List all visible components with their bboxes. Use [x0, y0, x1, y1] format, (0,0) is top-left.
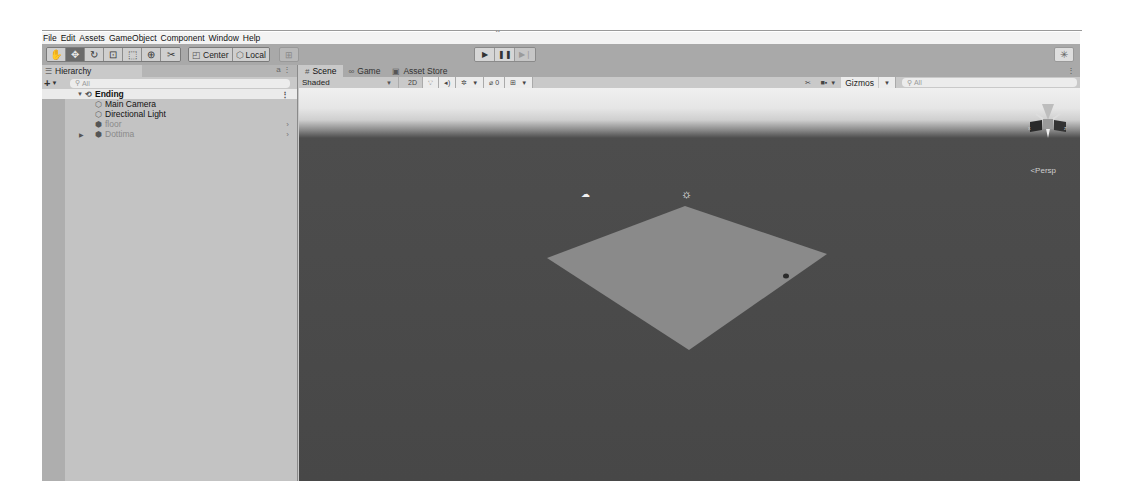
hidden-objects-toggle[interactable]: ⌀0 [484, 77, 505, 88]
menu-bar: File Edit Assets GameObject Component Wi… [42, 32, 1080, 44]
list-item-main-camera[interactable]: ⬡ Main Camera [42, 99, 297, 109]
scale-tool-button[interactable]: ⊡ [104, 48, 123, 61]
grid-hash-icon: # [305, 67, 309, 76]
gizmo-center-cube[interactable] [1043, 119, 1053, 129]
menu-gameobject[interactable]: GameObject [109, 33, 157, 43]
scene-search-input[interactable]: ⚲ All [902, 78, 1077, 87]
scene-kebab-icon[interactable]: ⋮ [1067, 66, 1075, 75]
tab-asset-store[interactable]: ▣ Asset Store [386, 65, 453, 77]
move-tool-button[interactable]: ✥ [66, 48, 85, 61]
pivot-rotation-button[interactable]: ⬡Local [233, 48, 269, 61]
search-icon: ⚲ [907, 79, 914, 87]
eye-slash-icon: ⌀ [489, 79, 493, 87]
list-item-directional-light[interactable]: ⬡ Directional Light [42, 109, 297, 119]
object-marker [783, 274, 789, 279]
hand-icon: ✋ [50, 49, 62, 60]
chevron-right-icon[interactable]: › [286, 130, 289, 139]
tab-label: Game [357, 66, 380, 76]
shading-mode-dropdown[interactable]: Shaded ▼ [299, 77, 399, 88]
hierarchy-search-input[interactable]: ⚲ All [70, 79, 290, 88]
transform-tool-button[interactable]: ⊕ [142, 48, 161, 61]
tab-scene[interactable]: # Scene [299, 65, 343, 77]
dropdown-caret-icon: ▼ [884, 80, 890, 86]
grid-snap-button[interactable]: ⊞ [279, 47, 299, 62]
local-cube-icon: ⬡ [236, 50, 244, 60]
step-icon: ▶❘ [519, 50, 532, 59]
chevron-right-icon[interactable]: › [286, 120, 289, 129]
expand-arrow-icon[interactable]: ▼ [77, 91, 85, 97]
pivot-mode-label: Center [203, 50, 229, 60]
scene-viewport[interactable]: ☁ ☼ x z <Persp [299, 88, 1080, 481]
menu-edit[interactable]: Edit [61, 33, 76, 43]
collab-button[interactable]: ✳ [1054, 47, 1074, 62]
pause-button[interactable]: ❚❚ [495, 48, 515, 61]
hierarchy-gutter [42, 89, 65, 481]
expand-arrow-icon[interactable]: ▶ [79, 131, 95, 138]
pivot-center-icon: ◰ [192, 50, 201, 60]
shading-mode-value: Shaded [302, 78, 330, 87]
gizmos-dropdown[interactable]: ▼ [879, 77, 896, 88]
list-item-floor[interactable]: ⬢ floor › [42, 119, 297, 129]
menu-help[interactable]: Help [243, 33, 260, 43]
lock-icon[interactable]: a [276, 65, 280, 74]
tab-hierarchy[interactable]: ☰ Hierarchy [42, 65, 142, 77]
menu-assets[interactable]: Assets [79, 33, 105, 43]
tab-label: Asset Store [403, 66, 447, 76]
list-icon: ☰ [45, 67, 52, 76]
scene-kebab-icon[interactable]: ⋮ [281, 90, 289, 99]
custom-tool-button[interactable]: ✂ [161, 48, 180, 61]
sparkle-icon: ✳ [1060, 49, 1068, 60]
list-item-dottima[interactable]: ▶ ⬢ Dottima › [42, 129, 297, 139]
screen-edge-line [42, 30, 1082, 31]
gizmos-button[interactable]: Gizmos [841, 77, 878, 88]
dropdown-caret-icon: ▼ [386, 80, 392, 86]
gameobject-cube-icon: ⬡ [95, 100, 102, 109]
tools-icon: ✂ [805, 79, 811, 87]
hierarchy-panel: ☰ Hierarchy a ⋮ +▼ ⚲ All ▼ ⟲ Ending ⋮ [42, 65, 298, 481]
scene-tabbar: # Scene ∞ Game ▣ Asset Store ⋮ [299, 65, 1080, 77]
effects-toggle[interactable]: ✲▼ [456, 77, 484, 88]
effects-icon: ✲ [461, 79, 467, 87]
projection-toggle[interactable]: <Persp [1030, 166, 1056, 175]
pivot-mode-button[interactable]: ◰Center [189, 48, 233, 61]
tools-toggle[interactable]: ✂ [800, 77, 816, 88]
light-gizmo-icon: ☼ [681, 187, 692, 201]
play-button[interactable]: ▶ [475, 48, 495, 61]
create-button[interactable]: +▼ [44, 77, 62, 89]
grid-snap-icon: ⊞ [285, 50, 293, 60]
playmode-controls: ▶ ❚❚ ▶❘ [474, 47, 536, 62]
scene-panel: # Scene ∞ Game ▣ Asset Store ⋮ Shaded ▼ … [299, 65, 1080, 481]
hierarchy-tab-actions: a ⋮ [276, 65, 291, 74]
prefab-icon: ⬢ [95, 130, 102, 139]
menu-component[interactable]: Component [161, 33, 205, 43]
menu-window[interactable]: Window [209, 33, 239, 43]
dropdown-caret-icon: ▼ [830, 80, 836, 86]
toggle-2d-button[interactable]: 2D [403, 77, 423, 88]
gameobject-cube-icon: ⬡ [95, 110, 102, 119]
kebab-menu-icon[interactable]: ⋮ [283, 65, 291, 74]
step-button[interactable]: ▶❘ [515, 48, 535, 61]
tools-icon: ✂ [167, 49, 175, 60]
rect-icon: ⬚ [128, 49, 137, 60]
scene-row-ending[interactable]: ▼ ⟲ Ending ⋮ [42, 89, 297, 99]
lightbulb-icon: 💡︎ [428, 79, 433, 87]
hierarchy-tab-label: Hierarchy [55, 66, 91, 76]
grid-toggle[interactable]: ⊞▼ [505, 77, 533, 88]
hierarchy-list: ▼ ⟲ Ending ⋮ ⬡ Main Camera ⬡ Directional… [42, 89, 297, 481]
hand-tool-button[interactable]: ✋ [47, 48, 66, 61]
main-toolbar: ✋ ✥ ↻ ⊡ ⬚ ⊕ ✂ ◰Center ⬡Local ⊞ ▶ ❚❚ ▶❘ ✳ [42, 44, 1080, 65]
x-axis-cone[interactable] [1030, 120, 1042, 132]
rect-tool-button[interactable]: ⬚ [123, 48, 142, 61]
y-axis-cone[interactable] [1042, 104, 1054, 120]
rotate-tool-button[interactable]: ↻ [85, 48, 104, 61]
lighting-toggle[interactable]: 💡︎ [423, 77, 439, 88]
audio-toggle[interactable]: ◂) [439, 77, 456, 88]
search-icon: ⚲ [75, 79, 82, 87]
pause-icon: ❚❚ [498, 50, 512, 59]
store-bag-icon: ▣ [392, 67, 400, 76]
plus-icon: + [44, 77, 50, 89]
orientation-gizmo[interactable]: x z [1028, 102, 1068, 146]
camera-dropdown[interactable]: ■▪▼ [816, 77, 842, 88]
tab-game[interactable]: ∞ Game [343, 65, 387, 77]
menu-file[interactable]: File [43, 33, 57, 43]
